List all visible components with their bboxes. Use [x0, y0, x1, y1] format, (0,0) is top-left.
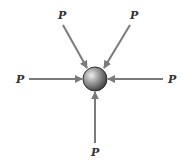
force-diagram: P P P P P: [0, 0, 184, 167]
label-top-right: P: [129, 9, 139, 22]
force-bottom: P: [90, 92, 100, 159]
arrow-top-right: [104, 25, 130, 68]
sphere: [83, 67, 107, 91]
label-left: P: [15, 73, 25, 86]
force-right: P: [108, 73, 177, 86]
label-top-left: P: [57, 9, 67, 22]
arrow-top-left: [63, 25, 87, 68]
force-left: P: [15, 73, 82, 86]
force-top-right: P: [104, 9, 139, 68]
label-right: P: [167, 73, 177, 86]
force-top-left: P: [57, 9, 87, 68]
label-bottom: P: [90, 146, 100, 159]
